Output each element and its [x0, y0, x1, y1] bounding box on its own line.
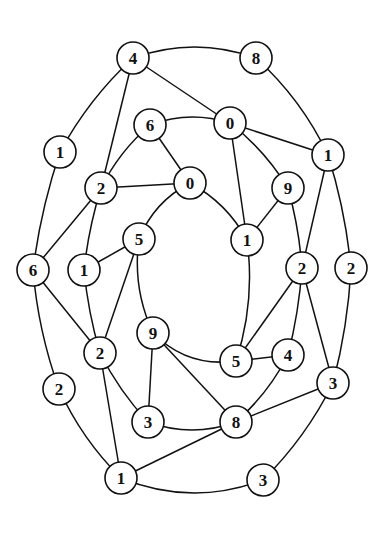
graph-node: 1 — [68, 254, 100, 286]
edge-o3b-o1b — [121, 478, 263, 493]
edge-o3a-m2r — [302, 268, 333, 383]
graph-diagram: 4812331261609248321201595 — [0, 0, 391, 544]
graph-node: 2 — [286, 252, 318, 284]
graph-node: 8 — [220, 406, 252, 438]
edge-m0-i1 — [230, 123, 247, 240]
node-label: 8 — [252, 49, 261, 68]
node-label: 0 — [186, 174, 195, 193]
node-label: 6 — [146, 116, 155, 135]
node-label: 3 — [329, 374, 338, 393]
node-label: 2 — [347, 259, 356, 278]
node-label: 3 — [259, 471, 268, 490]
graph-node: 3 — [132, 406, 164, 438]
node-label: 4 — [284, 346, 293, 365]
node-label: 2 — [96, 344, 105, 363]
graph-node: 2 — [43, 373, 75, 405]
node-label: 2 — [298, 259, 307, 278]
node-label: 5 — [232, 352, 241, 371]
graph-node: 6 — [17, 254, 49, 286]
graph-node: 8 — [240, 42, 272, 74]
graph-node: 5 — [123, 223, 155, 255]
edge-o2a-o3a — [333, 268, 351, 383]
graph-node: 3 — [247, 464, 279, 496]
node-label: 2 — [55, 380, 64, 399]
node-label: 4 — [129, 49, 138, 68]
graph-node: 1 — [312, 139, 344, 171]
edge-m2l-i5l — [100, 239, 139, 353]
graph-node: 1 — [44, 136, 76, 168]
edge-o4-o8 — [133, 47, 256, 58]
node-layer: 4812331261609248321201595 — [17, 42, 367, 496]
node-label: 1 — [117, 469, 126, 488]
node-label: 2 — [97, 179, 106, 198]
graph-node: 2 — [84, 337, 116, 369]
edge-o2b-o6 — [33, 270, 59, 389]
graph-node: 9 — [272, 172, 304, 204]
node-label: 5 — [135, 230, 144, 249]
edge-o6-o1c — [33, 152, 60, 270]
graph-node: 6 — [134, 109, 166, 141]
graph-node: 1 — [105, 462, 137, 494]
graph-node: 4 — [117, 42, 149, 74]
graph-node: 1 — [231, 224, 263, 256]
graph-node: 2 — [85, 172, 117, 204]
graph-node: 2 — [335, 252, 367, 284]
graph-node: 9 — [137, 317, 169, 349]
graph-node: 3 — [317, 367, 349, 399]
graph-node: 4 — [272, 339, 304, 371]
graph-node: 5 — [220, 345, 252, 377]
edge-i1-i5r — [236, 240, 250, 361]
node-label: 8 — [232, 413, 241, 432]
node-label: 1 — [243, 231, 252, 250]
edge-o1a-o2a — [328, 155, 351, 268]
edge-o8-o1a — [256, 58, 328, 155]
node-label: 9 — [149, 324, 158, 343]
edge-o1a-m2r — [302, 155, 328, 268]
node-label: 1 — [56, 143, 65, 162]
graph-node: 0 — [214, 107, 246, 139]
node-label: 1 — [324, 146, 333, 165]
node-label: 1 — [80, 261, 89, 280]
node-label: 6 — [29, 261, 38, 280]
node-label: 0 — [226, 114, 235, 133]
edge-o4-m2t — [101, 58, 133, 188]
node-label: 9 — [284, 179, 293, 198]
graph-node: 0 — [174, 167, 206, 199]
edge-m8-i9 — [153, 333, 236, 422]
node-label: 3 — [144, 413, 153, 432]
